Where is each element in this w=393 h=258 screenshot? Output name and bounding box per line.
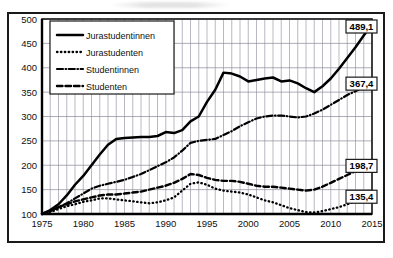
y-tick-label: 200 (21, 160, 37, 171)
y-tick-label: 450 (21, 38, 37, 49)
x-axis-tick-labels: 197519801985199019952000200520102015 (31, 218, 382, 229)
end-label-value-jurastudentinnen: 489,1 (350, 21, 374, 32)
x-tick-label: 2015 (361, 218, 382, 229)
x-tick-label: 2000 (238, 218, 259, 229)
end-label-value-studenten: 198,7 (350, 160, 374, 171)
x-tick-label: 1975 (31, 218, 52, 229)
x-tick-label: 1985 (114, 218, 135, 229)
y-tick-label: 300 (21, 111, 37, 122)
chart-legend: JurastudentinnenJurastudentenStudentinne… (50, 21, 174, 94)
legend-label-jurastudenten: Jurastudenten (86, 48, 143, 58)
line-chart: 500450400350300250200150100 197519801985… (9, 14, 383, 241)
y-tick-label: 400 (21, 62, 37, 73)
legend-label-studenten: Studenten (86, 82, 127, 92)
y-tick-label: 150 (21, 184, 37, 195)
x-tick-label: 2010 (320, 218, 341, 229)
end-label-value-jurastudenten: 135,4 (350, 191, 374, 202)
legend-label-jurastudentinnen: Jurastudentinnen (86, 31, 155, 41)
scan-artifact (110, 2, 230, 8)
y-tick-label: 500 (21, 14, 37, 25)
x-tick-label: 1990 (155, 218, 176, 229)
legend-label-studentinnen: Studentinnen (86, 65, 139, 75)
x-tick-label: 1995 (196, 218, 217, 229)
y-tick-label: 350 (21, 87, 37, 98)
y-axis-tick-labels: 500450400350300250200150100 (21, 14, 37, 220)
figure-frame: 500450400350300250200150100 197519801985… (7, 12, 385, 243)
y-tick-label: 250 (21, 135, 37, 146)
end-label-value-studentinnen: 367,4 (350, 78, 374, 89)
x-tick-label: 2005 (279, 218, 300, 229)
x-tick-label: 1980 (73, 218, 94, 229)
